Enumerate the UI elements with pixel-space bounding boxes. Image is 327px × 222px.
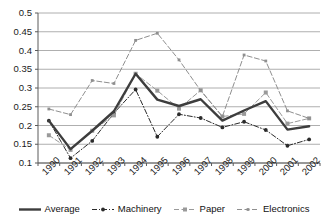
data-point-marker <box>242 120 246 124</box>
data-point-marker <box>307 137 311 141</box>
chart-legend: AverageMachineryPaperElectronics <box>0 199 327 219</box>
data-point-marker <box>264 128 268 132</box>
data-point-marker <box>264 91 268 95</box>
legend-label: Average <box>45 204 80 214</box>
data-point-marker <box>113 82 116 85</box>
legend-marker <box>183 207 187 211</box>
y-axis-tick-label: 0.15 <box>2 139 32 149</box>
data-point-marker <box>90 139 94 143</box>
data-point-marker <box>221 115 224 118</box>
legend-swatch-average <box>18 205 42 214</box>
data-point-marker <box>285 122 289 126</box>
series-line <box>49 74 309 150</box>
legend-swatch-paper <box>173 205 197 214</box>
y-axis-tick-label: 0.35 <box>2 64 32 74</box>
data-point-marker <box>286 144 290 148</box>
series-line <box>49 74 309 149</box>
plot-area: 0.10.150.20.250.30.350.40.450.5199019911… <box>0 0 327 222</box>
data-point-marker <box>177 112 181 116</box>
legend-marker <box>101 207 105 211</box>
legend-label: Electronics <box>263 204 309 214</box>
data-point-marker <box>134 39 137 42</box>
legend-swatch-electronics <box>236 205 260 214</box>
data-point-marker <box>264 60 267 63</box>
legend-label: Paper <box>200 204 225 214</box>
data-point-marker <box>199 89 202 92</box>
data-point-marker <box>199 116 203 120</box>
data-point-marker <box>155 89 159 93</box>
y-axis-tick-label: 0.1 <box>2 158 32 168</box>
y-axis-tick-label: 0.3 <box>2 83 32 93</box>
data-point-marker <box>91 79 94 82</box>
data-point-marker <box>286 109 289 112</box>
y-axis-tick-label: 0.4 <box>2 46 32 56</box>
legend-item-electronics[interactable]: Electronics <box>236 204 309 214</box>
y-axis-tick-label: 0.45 <box>2 27 32 37</box>
legend-label: Machinery <box>118 204 162 214</box>
chart-canvas <box>0 0 327 222</box>
y-axis-tick-label: 0.2 <box>2 121 32 131</box>
data-point-marker <box>47 108 50 111</box>
legend-swatch-machinery <box>91 205 115 214</box>
legend-item-machinery[interactable]: Machinery <box>91 204 162 214</box>
data-point-marker <box>69 113 72 116</box>
legend-marker <box>247 208 250 211</box>
data-point-marker <box>134 88 138 92</box>
y-axis-tick-label: 0.25 <box>2 102 32 112</box>
y-axis-tick-label: 0.5 <box>2 8 32 18</box>
series-line <box>49 90 309 159</box>
data-point-marker <box>308 117 311 120</box>
data-point-marker <box>220 125 224 129</box>
data-point-marker <box>178 58 181 61</box>
legend-item-paper[interactable]: Paper <box>173 204 225 214</box>
line-chart: 0.10.150.20.250.30.350.40.450.5199019911… <box>0 0 327 222</box>
legend-item-average[interactable]: Average <box>18 204 80 214</box>
data-point-marker <box>177 107 181 111</box>
data-point-marker <box>47 133 51 137</box>
data-point-marker <box>156 32 159 35</box>
data-point-marker <box>243 54 246 57</box>
data-point-marker <box>155 135 159 139</box>
